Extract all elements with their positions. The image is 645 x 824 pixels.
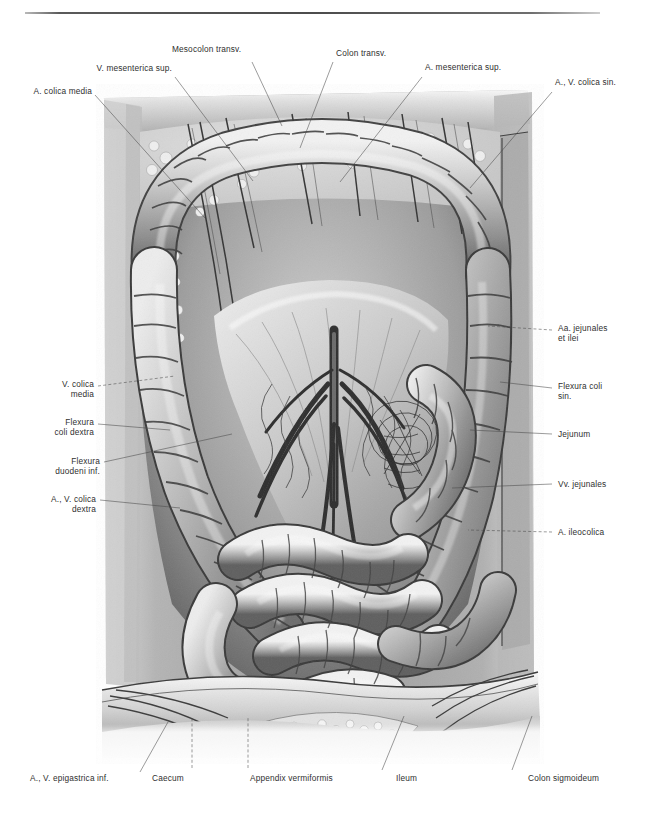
label-aa-jejunales-et-ilei: Aa. jejunales et ilei [558,323,607,344]
anatomical-illustration [96,84,544,764]
label-a-colica-media: A. colica media [8,86,92,96]
label-colon-sigmoideum: Colon sigmoideum [528,773,599,783]
label-flexura-coli-sin: Flexura coli sin. [558,381,602,402]
label-v-colica-media: V. colica media [6,379,94,400]
figure-page: A. colica media V. mesenterica sup. Meso… [0,0,645,824]
label-v-mesenterica-sup: V. mesenterica sup. [72,63,172,73]
label-appendix-vermiformis: Appendix vermiformis [250,773,333,783]
label-flexura-coli-dextra: Flexura coli dextra [4,417,94,438]
label-colon-transv: Colon transv. [336,48,386,58]
label-a-mesenterica-sup: A. mesenterica sup. [425,62,501,72]
header-rule [25,12,600,14]
label-a-v-colica-sin: A., V. colica sin. [555,77,616,87]
label-a-ileocolica: A. ileocolica [558,527,604,537]
illustration-canvas [96,84,544,764]
label-caecum: Caecum [152,773,184,783]
label-jejunum: Jejunum [558,429,590,439]
label-mesocolon-transv: Mesocolon transv. [172,44,241,54]
label-a-v-colica-dextra: A., V. colica dextra [0,494,96,515]
label-flexura-duodeni-inf: Flexura duodeni inf. [6,456,100,477]
label-ileum: Ileum [396,773,417,783]
label-vv-jejunales: Vv. jejunales [558,479,606,489]
label-a-v-epigastrica-inf: A., V. epigastrica inf. [30,773,109,783]
